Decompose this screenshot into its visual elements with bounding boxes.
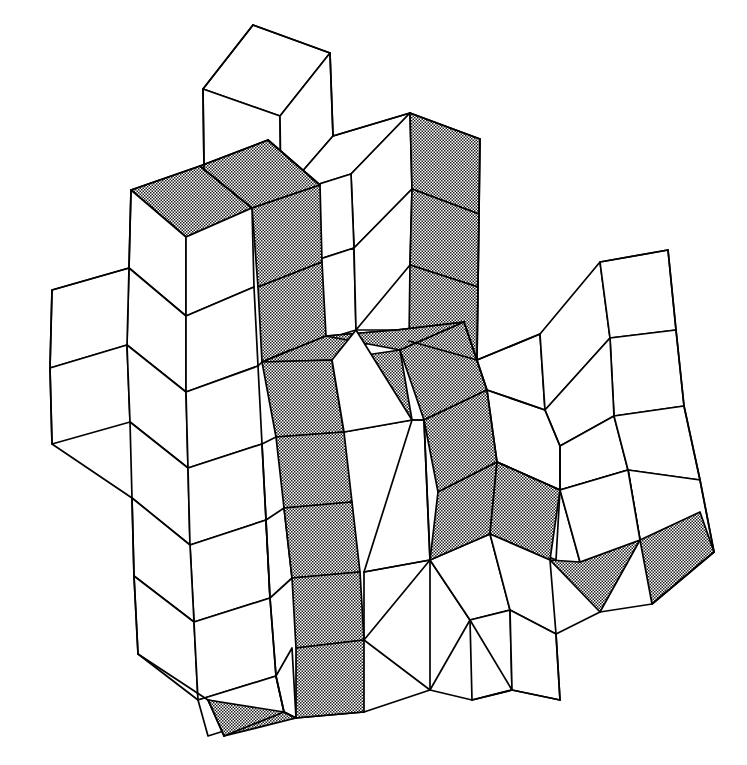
cluster-left	[50, 190, 266, 545]
rhombic-tiling-figure: Rhombic tiling with highlighted worm pat…	[0, 0, 747, 765]
rhombus-tile	[610, 330, 684, 416]
rhombus-tile-shaded	[292, 572, 364, 648]
rhombus-tile-shaded	[276, 432, 352, 508]
rhombus-tile	[600, 250, 676, 338]
rhombus-tile-shaded	[262, 360, 344, 437]
tiling-canvas	[0, 0, 747, 765]
rhombus-tile-shaded	[284, 502, 360, 578]
worm-right-arm	[424, 390, 497, 560]
worm-upper-right	[409, 113, 480, 360]
rhombus-tile	[364, 420, 430, 572]
rhombus-tile-shaded	[296, 640, 364, 718]
